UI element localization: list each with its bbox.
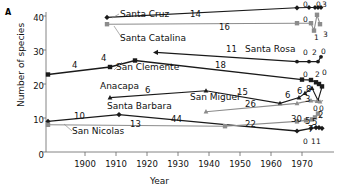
end-number-santa-barbara-0: 0 xyxy=(303,137,308,146)
series-label-santa-rosa: Santa Rosa xyxy=(245,44,295,54)
segment-number-santa-cruz-14: 14 xyxy=(190,9,201,19)
series-markers-san-clemente xyxy=(46,58,324,88)
end-number-san-miguel-0a: 0 xyxy=(313,104,318,113)
end-number-santa-rosa-0a: 0 xyxy=(303,48,308,57)
segment-number-santa-catalina-16: 16 xyxy=(219,22,230,32)
end-number-santa-cruz-0b: 0 xyxy=(316,0,321,9)
segment-number-san-miguel-3: 3 xyxy=(305,94,310,104)
segment-number-anacapa-6c: 6 xyxy=(297,86,302,96)
series-label-santa-cruz: Santa Cruz xyxy=(120,9,169,19)
segment-number-san-nicolas-30: 30 xyxy=(291,114,302,124)
segment-number-anacapa-6b: 6 xyxy=(285,90,290,100)
series-line-san-clemente xyxy=(48,61,322,87)
segment-number-san-clemente-18: 18 xyxy=(215,60,226,70)
segment-number-anacapa-15: 15 xyxy=(237,87,248,97)
series-label-san-nicolas: San Nicolas xyxy=(72,126,124,136)
end-number-san-clemente-0b: 0 xyxy=(322,68,327,77)
segment-number-anacapa-6: 6 xyxy=(145,85,150,95)
end-number-santa-cruz-3: 3 xyxy=(322,0,327,9)
end-number-santa-catalina-3: 3 xyxy=(323,30,328,39)
series-label-santa-catalina: Santa Catalina xyxy=(120,33,186,43)
segment-number-san-clemente-4a: 4 xyxy=(72,60,77,70)
end-number-san-miguel-0b: 0 xyxy=(319,104,324,113)
segment-number-santa-barbara-7: 7 xyxy=(308,124,313,134)
segment-number-san-nicolas-13: 13 xyxy=(130,119,141,129)
end-number-santa-rosa-0b: 0 xyxy=(321,47,326,56)
end-number-santa-cruz-0a: 0 xyxy=(303,0,308,9)
series-label-san-clemente: San Clemente xyxy=(116,62,179,72)
end-number-san-clemente-2: 2 xyxy=(315,70,320,79)
figure-panel-a: A Number of species Year 0 10 20 30 40 1… xyxy=(0,0,339,196)
series-label-san-miguel: San Miguel xyxy=(190,92,240,102)
segment-number-san-clemente-4b: 4 xyxy=(101,53,106,63)
segment-number-anacapa-8: 8 xyxy=(306,84,311,94)
segment-number-santa-rosa-11: 11 xyxy=(226,44,237,54)
x-axis-ticks xyxy=(85,152,302,156)
end-number-santa-rosa-2: 2 xyxy=(312,48,317,57)
segment-number-san-nicolas-22: 22 xyxy=(245,119,256,129)
segment-number-santa-barbara-10: 10 xyxy=(74,111,85,121)
end-number-san-clemente-0: 0 xyxy=(303,70,308,79)
end-number-santa-catalina-1: 1 xyxy=(314,33,319,42)
end-number-santa-barbara-1b: 1 xyxy=(316,137,321,146)
series-label-santa-barbara: Santa Barbara xyxy=(107,101,172,111)
segment-number-santa-barbara-44: 44 xyxy=(171,114,182,124)
end-number-santa-catalina-0: 0 xyxy=(303,15,308,24)
segment-number-san-miguel-26: 26 xyxy=(245,99,256,109)
series-line-san-nicolas xyxy=(48,114,322,127)
series-label-anacapa: Anacapa xyxy=(100,81,139,91)
y-axis-ticks xyxy=(42,16,46,152)
label-leader-lines xyxy=(64,14,122,131)
